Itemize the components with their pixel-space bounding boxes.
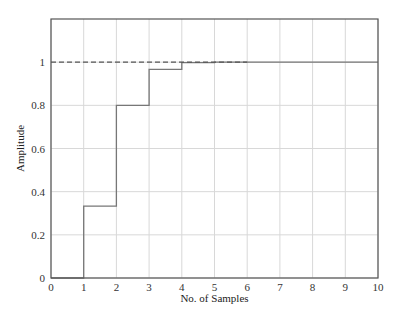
y-tick-label: 0.2 [31, 229, 45, 241]
step-response-chart: 012345678910 00.20.40.60.81 No. of Sampl… [0, 0, 395, 318]
x-tick-label: 8 [310, 281, 316, 293]
x-tick-label: 0 [48, 281, 54, 293]
x-tick-label: 10 [373, 281, 385, 293]
y-tick-label: 0.8 [31, 99, 45, 111]
x-tick-label: 3 [146, 281, 152, 293]
y-tick-label: 1 [40, 56, 46, 68]
x-tick-label: 9 [343, 281, 349, 293]
x-tick-label: 1 [81, 281, 87, 293]
y-tick-label: 0.4 [31, 186, 45, 198]
x-tick-label: 7 [277, 281, 283, 293]
grid-lines [51, 19, 378, 278]
y-tick-labels: 00.20.40.60.81 [31, 56, 45, 284]
y-tick-label: 0 [40, 272, 46, 284]
y-tick-label: 0.6 [31, 143, 45, 155]
x-tick-label: 2 [114, 281, 120, 293]
x-axis-label: No. of Samples [180, 292, 248, 304]
y-axis-label: Amplitude [14, 125, 26, 172]
